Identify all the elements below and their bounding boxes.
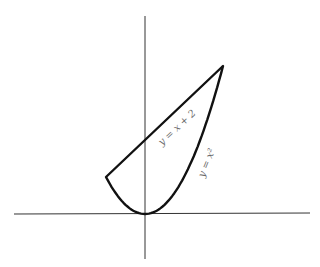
- parabola-label: y = x²: [195, 147, 217, 180]
- x-axis: [14, 213, 310, 214]
- line-label: y = x + 2: [155, 107, 198, 148]
- region-diagram: y = x + 2 y = x²: [0, 0, 320, 267]
